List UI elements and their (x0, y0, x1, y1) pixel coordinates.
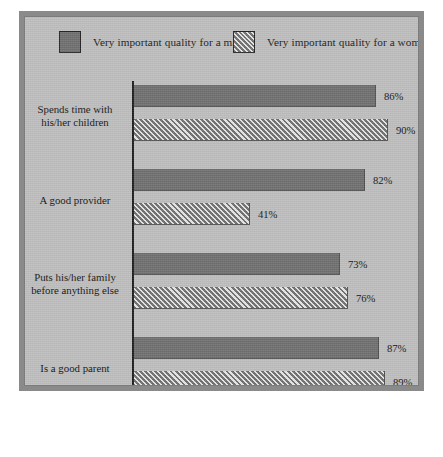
bar-value-puts-family-woman: 76% (356, 293, 375, 304)
category-label-puts-family: Puts his/her family before anything else (25, 271, 125, 297)
bar-puts-family-woman (134, 287, 348, 309)
bar-good-parent-woman (134, 371, 385, 386)
bar-value-puts-family-man: 73% (348, 259, 367, 270)
bar-value-spends-time-man: 86% (384, 91, 403, 102)
category-label-line1: A good provider (25, 194, 125, 207)
category-label-good-provider: A good provider (25, 194, 125, 207)
chart-figure: Very important quality for a man Very im… (0, 0, 443, 457)
bar-good-provider-woman (134, 203, 250, 225)
bar-spends-time-woman (134, 119, 388, 141)
figure-outer-frame: Very important quality for a man Very im… (19, 11, 424, 391)
bar-group-puts-family: Puts his/her family before anything else… (25, 253, 418, 325)
category-label-line2: before anything else (25, 284, 125, 297)
bar-value-good-parent-man: 87% (387, 343, 406, 354)
bar-puts-family-man (134, 253, 340, 275)
category-label-good-parent: Is a good parent (25, 362, 125, 375)
bar-value-spends-time-woman: 90% (396, 125, 415, 136)
plot-area: Spends time with his/her children 86% 90… (25, 17, 418, 385)
bar-value-good-provider-man: 82% (373, 175, 392, 186)
bar-good-provider-man (134, 169, 365, 191)
bar-good-parent-man (134, 337, 379, 359)
bar-spends-time-man (134, 85, 376, 107)
category-label-line2: his/her children (25, 116, 125, 129)
x-axis-line (132, 385, 386, 386)
category-label-spends-time: Spends time with his/her children (25, 103, 125, 129)
category-label-line1: Puts his/her family (25, 271, 125, 284)
bar-group-good-parent: Is a good parent 87% 89% (25, 337, 418, 386)
figure-inner-panel: Very important quality for a man Very im… (24, 16, 419, 386)
category-label-line1: Spends time with (25, 103, 125, 116)
bar-value-good-parent-woman: 89% (393, 377, 412, 387)
bar-value-good-provider-woman: 41% (258, 209, 277, 220)
bar-group-spends-time: Spends time with his/her children 86% 90… (25, 85, 418, 157)
category-label-line1: Is a good parent (25, 362, 125, 375)
bar-group-good-provider: A good provider 82% 41% (25, 169, 418, 241)
